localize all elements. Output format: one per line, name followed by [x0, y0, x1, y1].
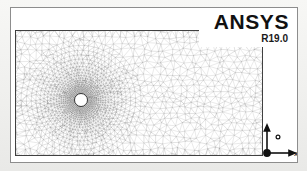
- plot-window: ANSYS R19.0 X: [10, 7, 298, 163]
- ansys-brand-text: ANSYS: [199, 11, 289, 33]
- origin-dot: [264, 150, 270, 156]
- mesh-domain: [15, 30, 263, 156]
- cylinder-hole: [75, 94, 88, 107]
- ansys-version-text: R19.0: [199, 33, 289, 44]
- screenshot-root: ANSYS R19.0 X: [0, 0, 307, 171]
- y-axis-arrowhead: [264, 125, 269, 131]
- ansys-logo-block: ANSYS R19.0: [199, 9, 295, 47]
- mesh-graphic: [15, 30, 263, 156]
- z-axis-out-of-page-marker: [276, 135, 280, 139]
- triad-icon: [258, 120, 298, 160]
- x-axis-label: X: [294, 151, 298, 157]
- coordinate-triad: X: [258, 120, 298, 160]
